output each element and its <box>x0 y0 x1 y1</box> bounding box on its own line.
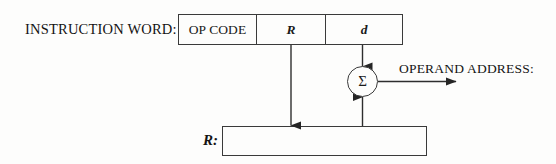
connector-lines <box>0 0 556 164</box>
adder-sigma-symbol: Σ <box>347 66 378 97</box>
diagram-canvas: INSTRUCTION WORD: OP CODE R d Σ OPERAND … <box>0 0 556 164</box>
